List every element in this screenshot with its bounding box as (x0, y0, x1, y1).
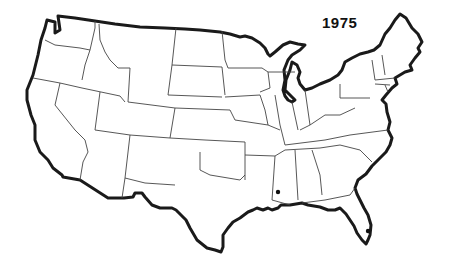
us-map (0, 0, 451, 277)
map-marker-florida (366, 229, 370, 233)
map-marker-mississippi (276, 190, 280, 194)
state-boundaries (33, 21, 395, 205)
